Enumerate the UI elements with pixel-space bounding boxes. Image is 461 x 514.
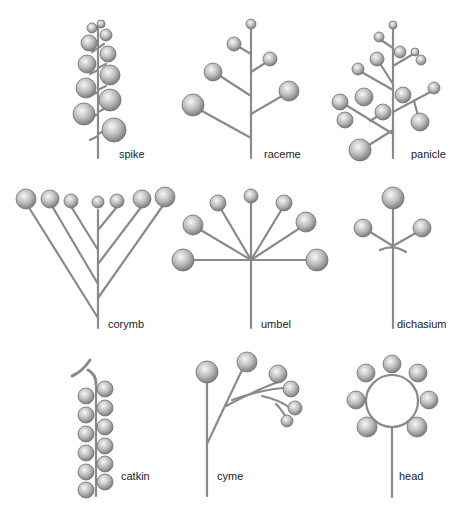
label-cyme: cyme <box>217 470 243 482</box>
corymb-flowers <box>16 187 175 209</box>
label-corymb: corymb <box>108 318 144 330</box>
umbel-stems <box>184 196 317 328</box>
label-dichasium: dichasium <box>397 318 447 330</box>
head-flowers <box>347 355 438 437</box>
label-umbel: umbel <box>261 318 291 330</box>
raceme-flowers <box>182 19 299 116</box>
panicle-stems <box>341 25 434 158</box>
label-raceme: raceme <box>264 148 301 160</box>
cyme-flowers <box>196 352 302 427</box>
spike-flowers <box>73 20 126 142</box>
corymb-stems <box>28 204 164 328</box>
panicle-flowers <box>332 21 440 161</box>
inflorescence-diagram <box>0 0 461 514</box>
label-spike: spike <box>119 148 145 160</box>
label-catkin: catkin <box>121 470 150 482</box>
label-panicle: panicle <box>411 148 446 160</box>
label-head: head <box>399 470 423 482</box>
dichasium-stems <box>367 198 421 328</box>
